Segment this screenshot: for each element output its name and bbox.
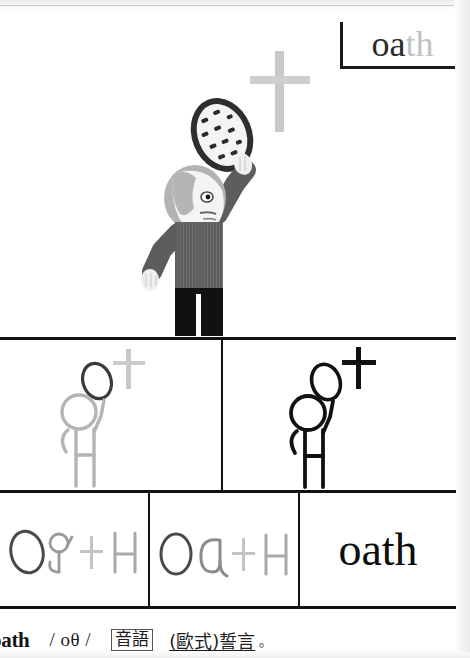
glyph-cross [80, 536, 103, 569]
letterform-cell-stage-two: oa+H [150, 493, 298, 606]
word-box-left-border [340, 22, 343, 69]
glyph-o [161, 534, 191, 574]
glyph-H [115, 533, 135, 572]
word-box-bottom-border [340, 66, 455, 69]
content-sheet: oath [0, 9, 456, 649]
letterform-cell-stage-one: Oɷ+H [0, 493, 148, 606]
scan-rule-top [0, 5, 470, 6]
divider-rule-3 [0, 606, 456, 609]
glyph-figure [50, 534, 72, 572]
word-label-segment-light: th [405, 24, 433, 64]
final-word-text: oath [338, 527, 417, 573]
glyph-a [201, 539, 227, 575]
stick-body-light [62, 395, 104, 486]
page-root: oath [0, 0, 470, 658]
scan-edge-right [454, 0, 470, 658]
stick-body-dark [291, 396, 333, 487]
word-label-box: oath [340, 22, 455, 69]
word-label-segment-dark: oa [372, 24, 406, 64]
dictionary-period: 。 [259, 631, 272, 650]
glyph-cross [232, 538, 255, 571]
letterform-cell-stage-three: oath [300, 493, 456, 606]
pants [175, 288, 223, 336]
cross-icon [250, 51, 310, 132]
cross-icon-light [113, 349, 145, 389]
dictionary-tag: 音語 [111, 629, 153, 652]
middle-panel-dark [223, 340, 456, 490]
dictionary-entry: oath / oθ / 音語 (歐式)誓言 。 [0, 623, 456, 657]
dictionary-phonetic: / oθ / [49, 629, 91, 651]
glyph-H [266, 535, 286, 574]
word-label-text: oath [362, 26, 434, 66]
stick-figure-dark-svg [223, 340, 456, 490]
middle-panel-light [0, 340, 221, 490]
dictionary-headword: oath [0, 628, 29, 653]
torso [175, 222, 223, 291]
cross-icon-dark [342, 347, 376, 389]
stage-one-glyphs [4, 510, 144, 590]
dictionary-definition: (歐式)誓言 [169, 627, 255, 653]
head [164, 165, 226, 231]
stage-two-glyphs [154, 510, 294, 590]
glyph-O [7, 528, 47, 576]
lowered-arm [141, 233, 178, 291]
stick-figure-light-svg [0, 340, 221, 490]
